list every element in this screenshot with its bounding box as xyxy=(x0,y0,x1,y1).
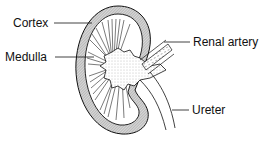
label-cortex: Cortex xyxy=(13,17,48,29)
label-medulla: Medulla xyxy=(5,51,47,63)
label-ureter: Ureter xyxy=(192,104,225,116)
label-renal-artery: Renal artery xyxy=(193,36,258,48)
